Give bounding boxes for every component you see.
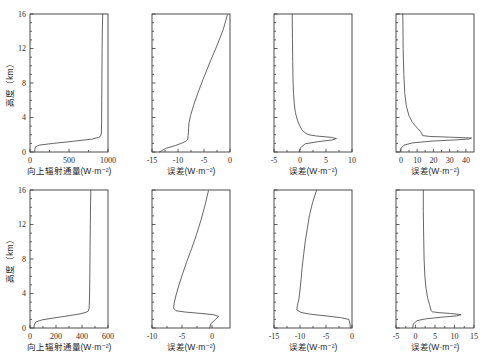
x-tick-label: -5 xyxy=(323,332,330,341)
x-tick-label: -15 xyxy=(269,332,280,341)
x-tick-label: 10 xyxy=(348,156,356,165)
y-tick-label: 0 xyxy=(22,324,26,333)
x-tick-label: -5 xyxy=(393,332,400,341)
y-tick-label: 8 xyxy=(22,79,26,88)
x-axis-label: 误差(W·m⁻²) xyxy=(411,166,460,176)
chart-panel-r1c3: -50510误差(W·m⁻²) xyxy=(248,8,358,182)
x-tick-label: 0 xyxy=(414,332,418,341)
chart-panel-r2c3: -15-10-50误差(W·m⁻²) xyxy=(248,184,358,357)
data-curve xyxy=(35,14,103,152)
data-curve xyxy=(297,190,351,328)
x-axis-label: 向上辐射通量(W·m⁻²) xyxy=(27,342,112,352)
x-tick-label: 5 xyxy=(324,156,328,165)
x-axis-label: 误差(W·m⁻²) xyxy=(411,342,460,352)
plot-frame xyxy=(30,190,108,328)
y-tick-label: 8 xyxy=(22,255,26,264)
y-tick-label: 0 xyxy=(22,148,26,157)
data-curve xyxy=(292,14,336,152)
plot-frame xyxy=(274,14,352,152)
chart-panel-r1c2: -15-10-50误差(W·m⁻²) xyxy=(126,8,236,182)
data-curve xyxy=(400,14,472,152)
chart-panel-r1c4: 010203040误差(W·m⁻²) xyxy=(370,8,480,182)
x-tick-label: 10 xyxy=(451,332,459,341)
x-tick-label: 15 xyxy=(470,332,478,341)
x-tick-label: -5 xyxy=(271,156,278,165)
x-tick-label: 400 xyxy=(76,332,88,341)
data-curve xyxy=(34,190,91,328)
chart-panel-r2c1: 02004006000481216向上辐射通量(W·m⁻²)高度（km） xyxy=(4,184,114,357)
plot-frame xyxy=(396,14,474,152)
plot-frame xyxy=(274,190,352,328)
y-tick-label: 12 xyxy=(18,44,26,53)
x-tick-label: 40 xyxy=(462,156,470,165)
x-tick-label: -5 xyxy=(179,332,186,341)
data-curve xyxy=(174,191,219,328)
x-tick-label: 1000 xyxy=(100,156,116,165)
x-tick-label: 200 xyxy=(50,332,62,341)
x-tick-label: 600 xyxy=(102,332,114,341)
x-axis-label: 误差(W·m⁻²) xyxy=(289,166,338,176)
x-tick-label: 0 xyxy=(350,332,354,341)
chart-panel-r1c1: 050010000481216向上辐射通量(W·m⁻²)高度（km） xyxy=(4,8,114,182)
figure-container: 050010000481216向上辐射通量(W·m⁻²)高度（km）-15-10… xyxy=(0,0,489,357)
plot-frame xyxy=(152,14,230,152)
x-tick-label: -10 xyxy=(147,332,158,341)
y-axis-label: 高度（km） xyxy=(5,59,15,106)
x-tick-label: -10 xyxy=(295,332,306,341)
y-tick-label: 12 xyxy=(18,220,26,229)
y-tick-label: 16 xyxy=(18,186,26,195)
x-tick-label: -15 xyxy=(147,156,158,165)
x-tick-label: -5 xyxy=(201,156,208,165)
x-tick-label: 10 xyxy=(413,156,421,165)
x-axis-label: 误差(W·m⁻²) xyxy=(167,342,216,352)
x-tick-label: 500 xyxy=(63,156,75,165)
x-axis-label: 误差(W·m⁻²) xyxy=(167,166,216,176)
plot-frame xyxy=(30,14,108,152)
x-tick-label: 5 xyxy=(433,332,437,341)
x-axis-label: 误差(W·m⁻²) xyxy=(289,342,338,352)
x-tick-label: 0 xyxy=(228,156,232,165)
chart-panel-r2c2: -10-50误差(W·m⁻²) xyxy=(126,184,236,357)
data-curve xyxy=(413,190,461,328)
x-tick-label: 20 xyxy=(429,156,437,165)
x-tick-label: 0 xyxy=(210,332,214,341)
plot-frame xyxy=(396,190,474,328)
y-tick-label: 4 xyxy=(22,289,26,298)
chart-panel-r2c4: -5051015误差(W·m⁻²) xyxy=(370,184,480,357)
x-tick-label: -10 xyxy=(173,156,184,165)
x-axis-label: 向上辐射通量(W·m⁻²) xyxy=(27,166,112,176)
y-axis-label: 高度（km） xyxy=(5,235,15,282)
x-tick-label: 0 xyxy=(298,156,302,165)
data-curve xyxy=(159,15,227,152)
plot-frame xyxy=(152,190,230,328)
x-tick-label: 0 xyxy=(28,156,32,165)
x-tick-label: 0 xyxy=(399,156,403,165)
y-tick-label: 16 xyxy=(18,10,26,19)
x-tick-label: 0 xyxy=(28,332,32,341)
y-tick-label: 4 xyxy=(22,113,26,122)
x-tick-label: 30 xyxy=(446,156,454,165)
